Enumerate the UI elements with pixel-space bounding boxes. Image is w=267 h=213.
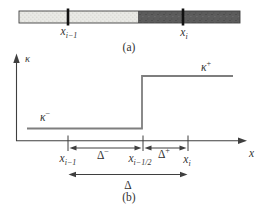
label-sup: −: [46, 109, 51, 118]
x-axis-label: x: [249, 148, 254, 160]
bar-right-material: [138, 11, 240, 23]
axis-label-xi: xi: [183, 154, 190, 166]
axis-label-xi-half: xi−1/2: [128, 153, 151, 165]
panel-a-caption: (a): [123, 42, 136, 54]
figure-graphics: [0, 0, 267, 213]
label-sup: +: [165, 146, 170, 155]
bar-label-xi-1: xi−1: [61, 26, 78, 38]
label-sub: i−1: [65, 158, 77, 167]
two-panel-interface-figure: xi−1 xi (a) κ x κ− κ+ xi−1 xi−1/2 xi Δ− …: [0, 0, 267, 213]
kappa-minus-label: κ−: [40, 112, 50, 124]
label-sub: i: [185, 32, 187, 41]
bar-left-material: [19, 11, 138, 23]
label-sup: −: [104, 147, 109, 156]
delta-full-label: Δ: [124, 180, 131, 192]
panel-b-caption: (b): [122, 192, 135, 204]
delta-minus-label: Δ−: [97, 150, 109, 162]
label-sup: +: [207, 59, 212, 68]
x-axis-arrowhead: [238, 138, 247, 144]
label-sub: i−1/2: [134, 158, 152, 167]
kappa-plus-label: κ+: [201, 62, 211, 74]
step-function-line: [27, 76, 233, 129]
kappa-axis-arrowhead: [13, 54, 19, 64]
label-sub: i−1: [66, 31, 78, 40]
axis-label-xi-1: xi−1: [60, 153, 77, 165]
kappa-axis-label: κ: [25, 54, 30, 65]
label-sub: i: [188, 159, 190, 168]
delta-plus-label: Δ+: [158, 149, 170, 161]
delta-full-arrow: [69, 172, 188, 177]
bar-label-xi: xi: [180, 27, 187, 39]
